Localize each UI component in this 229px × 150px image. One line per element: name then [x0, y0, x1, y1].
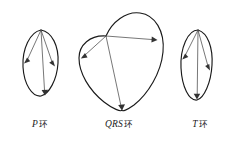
t-right-vector-arrowhead — [205, 64, 210, 70]
p-loop-group — [23, 30, 58, 96]
t-loop-group — [181, 30, 212, 100]
qrs-loop-caption-symbol: QRS — [105, 119, 123, 129]
p-loop-caption: P环 — [10, 120, 70, 130]
qrs-loop-caption: QRS环 — [88, 120, 150, 130]
p-right-vector-arrowhead — [49, 60, 55, 66]
p-left-vector — [27, 30, 41, 61]
qrs-loop-group — [79, 13, 163, 111]
qrs-bottom-vector — [106, 36, 121, 106]
qrs-right-vector-arrowhead — [151, 37, 157, 43]
t-loop-caption-cjk: 环 — [198, 119, 208, 129]
t-loop-caption-symbol: T — [192, 119, 197, 129]
p-loop-caption-cjk: 环 — [38, 119, 48, 129]
t-left-vector-arrowhead — [182, 53, 188, 59]
p-left-vector-arrowhead — [24, 58, 30, 64]
qrs-bottom-vector-arrowhead — [118, 104, 125, 110]
t-left-vector — [185, 30, 198, 56]
qrs-left-vector — [85, 36, 107, 56]
qrs-right-vector — [106, 36, 153, 40]
qrs-loop-caption-cjk: 环 — [123, 119, 133, 129]
qrs-loop-outline — [79, 13, 163, 111]
vectorcardiogram-figure: P环 QRS环 T环 — [0, 0, 229, 150]
t-bottom-vector — [197, 30, 198, 96]
t-right-vector — [198, 30, 208, 67]
t-loop-caption: T环 — [172, 120, 228, 130]
